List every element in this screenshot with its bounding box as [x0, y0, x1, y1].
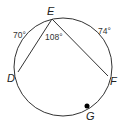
label-F: F	[110, 75, 118, 87]
arc-DE-measure: 70°	[13, 30, 26, 40]
label-E: E	[47, 5, 55, 17]
arc-EF-measure: 74°	[98, 26, 111, 36]
circle-diagram: E D F G 70° 108° 74°	[0, 0, 126, 123]
label-D: D	[7, 72, 15, 84]
point-G-dot	[85, 104, 90, 109]
label-G: G	[86, 110, 95, 122]
angle-DEF-measure: 108°	[45, 32, 63, 42]
